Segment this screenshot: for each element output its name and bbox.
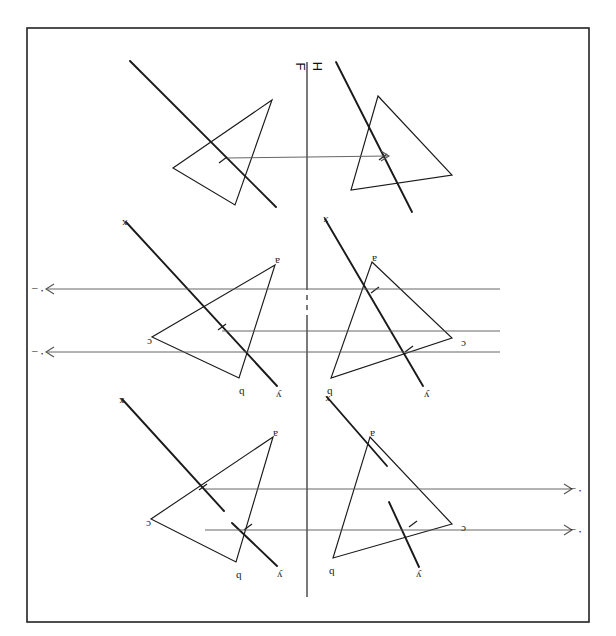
bottom-left-vertex-label-a: a — [273, 429, 278, 440]
arrow-tag-left-upper-dash: – — [32, 284, 38, 295]
top-left-intersection-tick-0 — [219, 157, 227, 163]
middle-left-vertex-label-x: x — [122, 218, 128, 229]
bottom-left-intersection-tick-1 — [244, 524, 252, 530]
bottom-right-intersection-tick-0 — [409, 521, 417, 527]
middle-right-intersection-tick-0 — [371, 287, 379, 293]
bottom-right-triangle — [333, 437, 452, 558]
bottom-left-line-xy — [122, 399, 224, 511]
top-right-line-xy — [336, 62, 412, 212]
arrow-tag-right-lower: · — [578, 526, 582, 539]
arrow-tag-right-upper: · — [578, 485, 582, 498]
top-projector-0 — [227, 156, 389, 158]
bottom-right-line-xy — [327, 397, 387, 466]
middle-right-triangle — [331, 262, 452, 378]
bottom-left-vertex-label-x: x — [119, 396, 125, 407]
bottom-right-vertex-label-a: a — [370, 429, 375, 440]
bottom-left-vertex-label-y: y — [277, 570, 283, 581]
middle-right-line-xy — [325, 219, 423, 386]
arrow-tag-left-lower: · — [40, 348, 44, 361]
plate-drawing — [0, 0, 616, 636]
middle-left-vertex-label-a: a — [275, 256, 280, 267]
fold-line-label-horizontal: H — [311, 62, 324, 71]
bottom-right-vertex-label-c: c — [461, 524, 466, 535]
middle-left-line-xy — [126, 222, 277, 386]
plate-page: 68 F H acbxyacbxyacbxyacbxy·–·–·–·– — [0, 0, 616, 636]
bottom-left-vertex-label-c: c — [146, 519, 151, 530]
plate-border — [27, 28, 589, 622]
middle-right-vertex-label-a: a — [372, 254, 377, 265]
bottom-left-vertex-label-b: b — [236, 571, 242, 582]
middle-right-vertex-label-x: x — [323, 215, 329, 226]
arrow-tag-right-lower-dash: – — [570, 525, 576, 536]
top-left-line-xy — [130, 61, 276, 207]
bottom-left-triangle — [151, 437, 273, 562]
middle-left-vertex-label-b: b — [239, 387, 245, 398]
middle-left-vertex-label-c: c — [147, 337, 152, 348]
middle-right-vertex-label-c: c — [461, 339, 466, 350]
bottom-left-line-xy-part2 — [232, 523, 277, 566]
fold-line-label-front: F — [294, 63, 307, 71]
arrow-tag-left-lower-dash: – — [32, 347, 38, 358]
bottom-right-vertex-label-x: x — [325, 394, 331, 405]
arrow-tag-left-upper: · — [40, 285, 44, 298]
bottom-right-vertex-label-y: y — [416, 570, 422, 581]
top-right-triangle — [351, 96, 452, 190]
middle-right-vertex-label-y: y — [424, 390, 430, 401]
bottom-right-vertex-label-b: b — [329, 567, 335, 578]
middle-left-vertex-label-y: y — [276, 390, 282, 401]
middle-left-triangle — [152, 265, 275, 378]
arrow-tag-right-upper-dash: – — [570, 484, 576, 495]
